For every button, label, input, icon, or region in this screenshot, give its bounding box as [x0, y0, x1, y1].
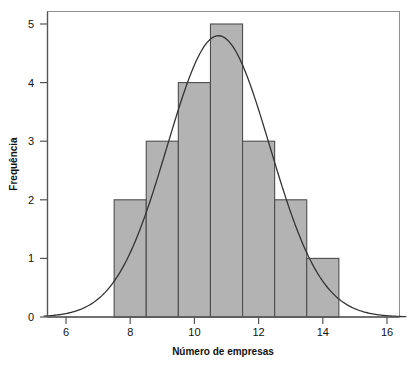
x-tick-label: 8 — [127, 326, 133, 338]
x-tick-label: 12 — [252, 326, 264, 338]
x-tick-label: 10 — [188, 326, 200, 338]
y-axis-ticks: 012345 — [28, 18, 48, 323]
histogram-bar — [146, 141, 178, 317]
y-tick-label: 0 — [28, 311, 34, 323]
histogram-bar — [114, 200, 146, 317]
x-axis-title: Número de empresas — [172, 346, 274, 357]
histogram-bar — [275, 200, 307, 317]
x-axis-ticks: 6810121416 — [63, 317, 393, 338]
histogram-bar — [307, 258, 339, 317]
y-tick-label: 5 — [28, 18, 34, 30]
x-tick-label: 14 — [317, 326, 329, 338]
y-axis-title: Frequência — [8, 137, 19, 191]
histogram-bar — [243, 141, 275, 317]
histogram-bar — [210, 24, 242, 317]
y-tick-label: 1 — [28, 252, 34, 264]
y-tick-label: 4 — [28, 77, 34, 89]
y-tick-label: 3 — [28, 135, 34, 147]
histogram-figure: 6810121416 012345 Número de empresas Fre… — [0, 0, 417, 371]
x-tick-label: 16 — [381, 326, 393, 338]
chart-canvas: 6810121416 012345 Número de empresas Fre… — [0, 0, 417, 371]
x-tick-label: 6 — [63, 326, 69, 338]
y-tick-label: 2 — [28, 194, 34, 206]
histogram-bar — [178, 83, 210, 317]
